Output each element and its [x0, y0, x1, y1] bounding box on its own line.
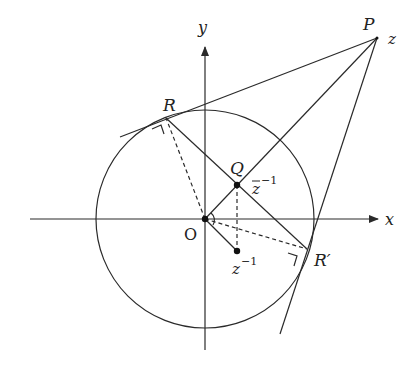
svg-text:−1: −1 — [261, 174, 277, 187]
label-R-prime: R′ — [313, 250, 331, 270]
radius-OR-dashed — [166, 118, 205, 219]
point-z-inverse — [234, 248, 240, 254]
label-P: P — [362, 14, 375, 34]
right-angle-mark-R — [152, 125, 164, 134]
line-OP — [205, 38, 377, 219]
label-z: z — [387, 30, 396, 48]
point-P — [376, 37, 379, 40]
label-O: O — [184, 225, 197, 244]
right-angle-mark-R-prime — [288, 253, 297, 266]
point-O — [202, 216, 208, 222]
label-z-inverse: z −1 — [231, 255, 257, 278]
label-Q: Q — [230, 158, 244, 178]
label-zbar-inverse: z −1 — [251, 174, 277, 198]
svg-text:z: z — [251, 180, 260, 198]
label-x: x — [385, 210, 394, 229]
label-R: R — [162, 95, 176, 115]
tangent-line-R — [120, 38, 377, 137]
geometry-diagram: y x P z R R′ Q O z −1 z −1 — [0, 0, 420, 368]
label-y: y — [197, 18, 208, 37]
svg-text:z: z — [231, 260, 240, 278]
svg-text:−1: −1 — [241, 255, 257, 268]
tangent-line-R-prime — [280, 38, 377, 334]
point-Q — [234, 182, 240, 188]
